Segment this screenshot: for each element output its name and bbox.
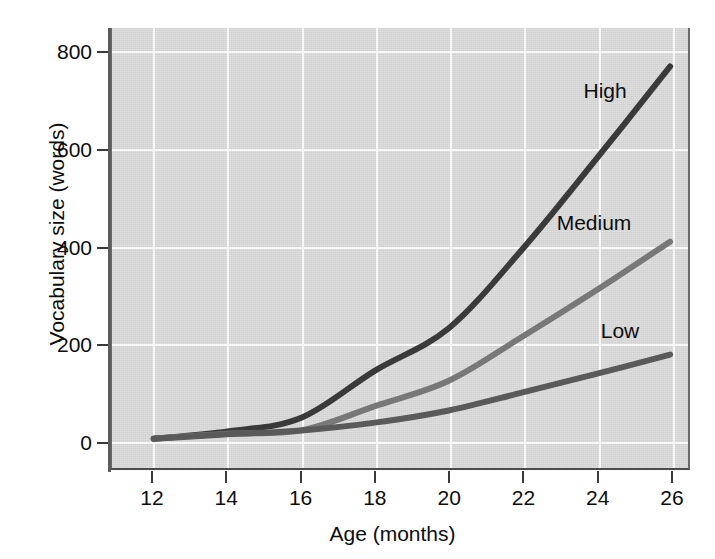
x-axis-tick: [374, 471, 376, 483]
series-label-high: High: [584, 80, 627, 101]
series-label-low: Low: [601, 320, 640, 341]
chart-figure: 0200400600800 1214161820222426 HighMediu…: [0, 0, 715, 559]
x-axis-tick: [300, 471, 302, 483]
x-axis-tick-label: 18: [345, 487, 405, 509]
y-axis-tick: [97, 442, 108, 444]
x-axis-tick: [597, 471, 599, 483]
x-axis-tick-label: 22: [493, 487, 553, 509]
x-axis-tick-label: 20: [419, 487, 479, 509]
x-axis-tick: [151, 471, 153, 483]
x-axis-tick-label: 12: [122, 487, 182, 509]
y-axis-title: Vocabulary size (words): [45, 14, 69, 454]
x-axis-title: Age (months): [0, 522, 715, 546]
x-axis-tick-label: 24: [568, 487, 628, 509]
x-axis-tick-label: 16: [271, 487, 331, 509]
x-axis-tick: [522, 471, 524, 483]
series-label-medium: Medium: [557, 212, 632, 233]
y-axis-tick: [97, 149, 108, 151]
y-axis-spine: [108, 28, 111, 472]
series-line-high: [154, 66, 670, 438]
y-axis-tick: [97, 247, 108, 249]
y-axis-tick: [97, 344, 108, 346]
series-line-medium: [154, 242, 670, 439]
x-axis-tick-label: 26: [642, 487, 702, 509]
x-axis-tick: [448, 471, 450, 483]
x-axis-tick: [225, 471, 227, 483]
x-axis-tick: [671, 471, 673, 483]
y-axis-tick: [97, 51, 108, 53]
x-axis-tick-label: 14: [196, 487, 256, 509]
